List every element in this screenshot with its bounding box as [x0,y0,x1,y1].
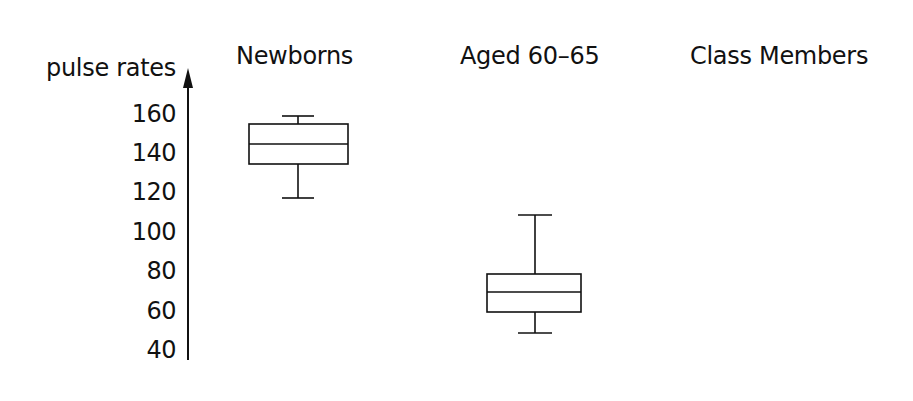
plot-area [0,0,913,401]
y-axis [183,68,193,360]
iqr-box [487,274,581,312]
boxplot-newborns [249,116,348,198]
arrow-up-icon [183,68,193,88]
boxplot-aged-60-65 [487,215,581,333]
